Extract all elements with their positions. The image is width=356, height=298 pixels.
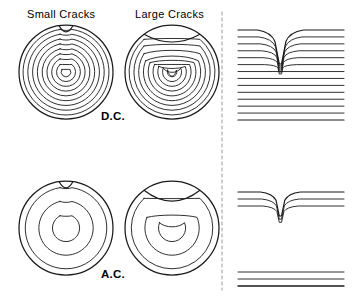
field-ring <box>158 223 185 242</box>
dc-large-cracks-circle <box>125 25 219 119</box>
crack-pattern-figure: Small Cracks Large Cracks D.C. A.C. <box>0 0 356 298</box>
field-ring <box>61 69 71 76</box>
specimen-outline <box>19 181 113 275</box>
ac-small-cracks-circle <box>19 181 113 275</box>
dc-small-cracks-circle <box>19 25 113 119</box>
field-ring <box>39 201 93 255</box>
ac-large-cracks-circle <box>125 181 219 275</box>
field-ring <box>25 188 107 269</box>
field-ring <box>52 59 81 86</box>
diagram-canvas <box>0 0 356 298</box>
crack-notch <box>59 182 73 188</box>
flux-line <box>238 199 344 219</box>
label-dc-mode: D.C. <box>101 110 125 122</box>
field-ring <box>42 49 90 96</box>
label-ac-mode: A.C. <box>101 268 125 280</box>
dc-profile-panel <box>238 30 344 120</box>
field-ring <box>162 68 181 81</box>
flux-line <box>238 37 344 66</box>
field-ring <box>131 198 213 268</box>
field-ring <box>145 215 199 255</box>
field-ring <box>167 70 177 77</box>
field-ring <box>52 216 79 242</box>
label-small-cracks: Small Cracks <box>27 8 95 20</box>
field-ring <box>37 44 94 101</box>
flux-line <box>238 51 344 70</box>
field-ring <box>28 34 104 110</box>
field-ring <box>23 29 109 115</box>
field-ring <box>143 56 200 101</box>
flux-line <box>238 206 344 222</box>
field-ring <box>56 65 75 82</box>
crack-notch <box>144 190 200 201</box>
flux-line <box>238 65 344 74</box>
crack-notch <box>59 26 73 32</box>
specimen-outline <box>125 181 219 275</box>
label-large-cracks: Large Cracks <box>135 8 204 20</box>
field-ring <box>148 60 196 96</box>
flux-line <box>238 192 344 216</box>
specimen-outline <box>19 25 113 119</box>
ac-profile-panel <box>238 192 344 286</box>
